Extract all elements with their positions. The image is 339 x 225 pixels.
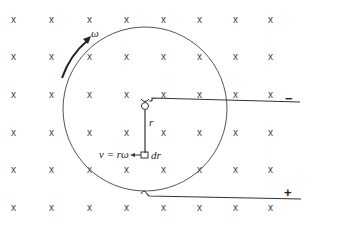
field-x-mark: x xyxy=(197,164,202,175)
field-x-mark: x xyxy=(161,14,166,25)
element-label: dr xyxy=(151,149,162,161)
rotation-arrow xyxy=(62,40,88,78)
field-x-mark: x xyxy=(11,202,16,213)
radius-label: r xyxy=(149,116,154,128)
field-x-mark: x xyxy=(49,89,54,100)
field-x-mark: x xyxy=(11,14,16,25)
field-x-mark: x xyxy=(87,89,92,100)
field-x-mark: x xyxy=(11,164,16,175)
faraday-disk-diagram: xxxxxxxxxxxxxxxxxxxxxxxxxxxxxxxxxxxxxxxx… xyxy=(0,0,339,225)
field-x-mark: x xyxy=(233,51,238,62)
field-x-mark: x xyxy=(124,164,129,175)
field-x-mark: x xyxy=(233,89,238,100)
field-x-mark: x xyxy=(124,51,129,62)
axle-contact xyxy=(142,103,149,110)
field-x-mark: x xyxy=(197,51,202,62)
field-x-mark: x xyxy=(268,51,273,62)
field-x-mark: x xyxy=(11,51,16,62)
field-x-mark: x xyxy=(233,202,238,213)
field-x-mark: x xyxy=(124,127,129,138)
field-x-mark: x xyxy=(124,202,129,213)
axle-brush xyxy=(141,99,149,102)
positive-lead-wire xyxy=(147,194,301,199)
field-x-mark: x xyxy=(87,202,92,213)
field-x-mark: x xyxy=(197,89,202,100)
omega-label: ω xyxy=(91,27,99,39)
field-x-mark: x xyxy=(233,127,238,138)
field-x-mark: x xyxy=(268,14,273,25)
field-x-mark: x xyxy=(161,51,166,62)
field-x-mark: x xyxy=(268,164,273,175)
field-x-mark: x xyxy=(49,164,54,175)
velocity-label: v = rω xyxy=(99,148,129,160)
field-x-mark: x xyxy=(161,164,166,175)
field-x-mark: x xyxy=(233,164,238,175)
field-x-mark: x xyxy=(87,14,92,25)
field-x-mark: x xyxy=(124,14,129,25)
field-x-mark: x xyxy=(268,89,273,100)
field-x-mark: x xyxy=(197,202,202,213)
field-x-mark: x xyxy=(161,202,166,213)
field-x-mark: x xyxy=(161,127,166,138)
positive-terminal-label: + xyxy=(284,185,292,200)
field-x-mark: x xyxy=(197,14,202,25)
magnetic-field-grid: xxxxxxxxxxxxxxxxxxxxxxxxxxxxxxxxxxxxxxxx… xyxy=(11,14,273,213)
field-x-mark: x xyxy=(268,127,273,138)
field-x-mark: x xyxy=(87,51,92,62)
field-x-mark: x xyxy=(124,89,129,100)
field-x-mark: x xyxy=(11,89,16,100)
field-x-mark: x xyxy=(49,202,54,213)
field-x-mark: x xyxy=(49,127,54,138)
field-x-mark: x xyxy=(11,127,16,138)
field-x-mark: x xyxy=(233,14,238,25)
field-x-mark: x xyxy=(87,127,92,138)
field-x-mark: x xyxy=(268,202,273,213)
field-x-mark: x xyxy=(197,127,202,138)
field-x-mark: x xyxy=(49,51,54,62)
field-x-mark: x xyxy=(49,14,54,25)
negative-terminal-label: − xyxy=(285,91,293,106)
